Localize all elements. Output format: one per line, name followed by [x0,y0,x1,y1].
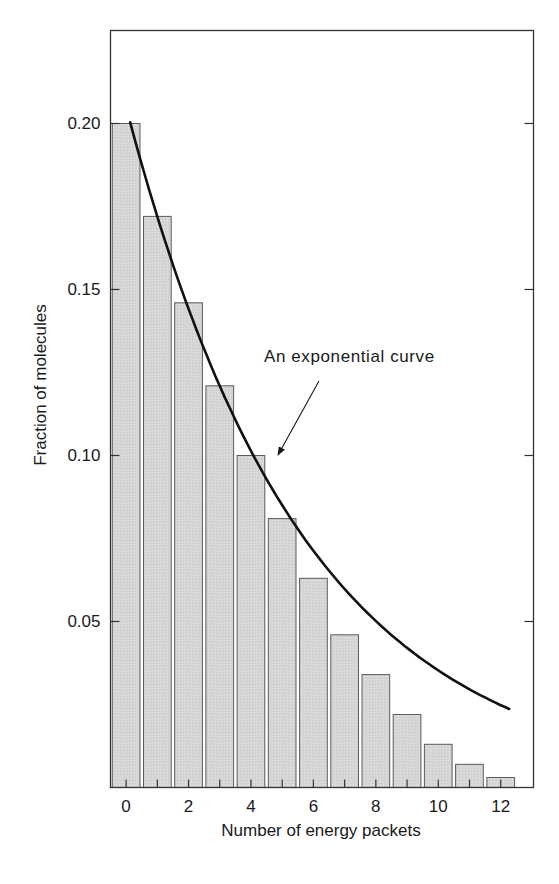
x-tick-label: 4 [246,797,255,816]
x-tick-label: 2 [184,797,193,816]
bar-8 [362,675,390,788]
x-tick-label: 0 [121,797,130,816]
bar-7 [331,635,359,788]
bar-2 [175,303,203,788]
bar-5 [268,519,296,788]
bar-9 [393,715,421,788]
x-tick-label: 10 [429,797,448,816]
y-axis-title: Fraction of molecules [31,304,50,466]
bar-1 [144,216,172,787]
y-tick-label: 0.10 [67,446,100,465]
bar-6 [300,578,328,787]
bar-3 [206,386,234,788]
y-tick-label: 0.15 [67,280,100,299]
curve-annotation-label: An exponential curve [264,347,435,366]
energy-distribution-chart: 0.050.100.150.20 024681012 An exponentia… [0,0,559,884]
bar-4 [237,456,265,788]
x-tick-label: 6 [309,797,318,816]
x-tick-label: 8 [371,797,380,816]
bar-series [112,124,514,788]
x-axis-title: Number of energy packets [221,821,420,840]
y-tick-label: 0.20 [67,114,100,133]
x-tick-label: 12 [491,797,510,816]
annotation-arrow-icon [278,381,319,455]
y-tick-label: 0.05 [67,612,100,631]
